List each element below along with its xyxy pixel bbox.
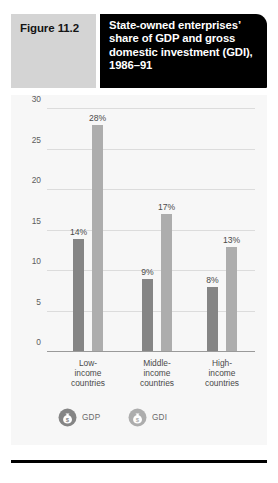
legend-label: GDP (82, 413, 100, 422)
bar-value-label: 8% (206, 275, 218, 285)
figure-number-label: Figure 11.2 (20, 22, 79, 34)
bar-gdp-2[interactable]: 9% (142, 279, 153, 352)
category-label-line: income (55, 368, 121, 378)
legend-item-gdi[interactable]: $GDI (128, 408, 167, 427)
figure-title-box: State-owned enterprises’ share of GDP an… (100, 14, 267, 88)
x-axis-category-label: Middle-incomecountries (124, 358, 190, 389)
money-bag-icon: $ (58, 408, 77, 427)
y-axis-tick-label: 15 (32, 216, 41, 226)
x-axis-category-label: High-incomecountries (189, 358, 255, 389)
y-axis-tick-label: 25 (32, 135, 41, 145)
bar-value-label: 13% (223, 235, 240, 245)
category-label-line: countries (55, 378, 121, 388)
bar-value-label: 9% (141, 267, 153, 277)
category-label-line: countries (124, 378, 190, 388)
y-axis-tick-label: 20 (32, 175, 41, 185)
x-axis-category-label: Low-incomecountries (55, 358, 121, 389)
bar-value-label: 14% (70, 227, 87, 237)
figure-number-box: Figure 11.2 (11, 14, 96, 88)
bar-value-label: 17% (158, 202, 175, 212)
y-axis-tick-label: 5 (36, 297, 41, 307)
plot-area: 051015202530 14%28%Low-incomecountries9%… (47, 109, 255, 352)
category-label-line: Middle- (124, 358, 190, 368)
chart-panel: 051015202530 14%28%Low-incomecountries9%… (11, 95, 267, 445)
bar-gdp-3[interactable]: 8% (207, 287, 218, 352)
category-label-line: High- (189, 358, 255, 368)
bottom-divider (11, 460, 267, 463)
figure-title: State-owned enterprises’ share of GDP an… (109, 19, 261, 73)
y-axis-tick-label: 0 (36, 337, 41, 347)
bar-gdp-1[interactable]: 14% (73, 239, 84, 352)
y-axis-tick-label: 10 (32, 256, 41, 266)
x-axis-line (47, 351, 255, 352)
bar-group: 9%17%Middle-incomecountries (142, 109, 172, 352)
y-axis-tick-label: 30 (32, 94, 41, 104)
bar-gdi-3[interactable]: 13% (226, 247, 237, 352)
category-label-line: income (189, 368, 255, 378)
bar-value-label: 28% (89, 113, 106, 123)
category-label-line: Low- (55, 358, 121, 368)
legend-label: GDI (152, 413, 167, 422)
figure-header: Figure 11.2 State-owned enterprises’ sha… (11, 14, 267, 88)
money-bag-icon: $ (128, 408, 147, 427)
bar-gdi-2[interactable]: 17% (161, 214, 172, 352)
category-label-line: income (124, 368, 190, 378)
legend-item-gdp[interactable]: $GDP (58, 408, 100, 427)
bar-group: 8%13%High-incomecountries (207, 109, 237, 352)
bar-group: 14%28%Low-incomecountries (73, 109, 103, 352)
category-label-line: countries (189, 378, 255, 388)
bar-gdi-1[interactable]: 28% (92, 125, 103, 352)
